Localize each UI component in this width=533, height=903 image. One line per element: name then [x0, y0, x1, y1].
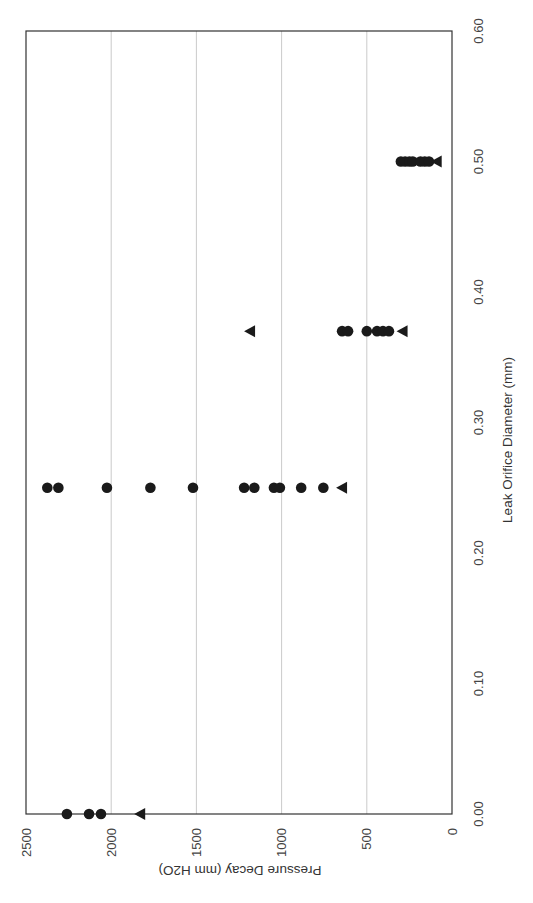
triangle-marker: [397, 325, 408, 337]
triangle-marker: [244, 325, 255, 337]
triangle-marker: [336, 482, 347, 494]
circle-marker: [249, 482, 260, 493]
pressure-tick-label: 0: [445, 828, 460, 835]
circle-marker: [343, 326, 354, 337]
diameter-axis-ticks: 0.000.100.200.300.400.500.60: [471, 18, 486, 826]
circle-marker: [296, 482, 307, 493]
circle-marker: [239, 482, 250, 493]
diameter-tick-label: 0.30: [471, 410, 486, 435]
pressure-tick-label: 2500: [19, 828, 34, 857]
circle-marker: [102, 482, 113, 493]
triangle-marker: [134, 808, 145, 820]
circle-marker: [53, 482, 64, 493]
gridlines: [111, 31, 367, 814]
circle-marker: [42, 482, 53, 493]
diameter-tick-label: 0.40: [471, 279, 486, 304]
pressure-tick-label: 500: [359, 828, 374, 850]
diameter-tick-label: 0.00: [471, 801, 486, 826]
data-points: [42, 156, 442, 821]
triangle-marker: [431, 156, 442, 168]
circle-marker: [84, 809, 95, 820]
diameter-tick-label: 0.10: [471, 671, 486, 696]
diameter-axis-title: Leak Orifice Diameter (mm): [500, 357, 515, 523]
pressure-tick-label: 1500: [189, 828, 204, 857]
circle-marker: [96, 809, 107, 820]
circle-marker: [318, 482, 329, 493]
circle-marker: [145, 482, 156, 493]
diameter-tick-label: 0.60: [471, 18, 486, 43]
plot-border: [26, 31, 452, 814]
pressure-axis-ticks: 05001000150020002500: [19, 828, 460, 857]
scatter-chart: 05001000150020002500 0.000.100.200.300.4…: [0, 0, 533, 903]
circle-marker: [62, 809, 73, 820]
circle-marker: [384, 326, 395, 337]
circle-marker: [188, 482, 199, 493]
pressure-tick-label: 1000: [274, 828, 289, 857]
pressure-tick-label: 2000: [104, 828, 119, 857]
diameter-tick-label: 0.50: [471, 149, 486, 174]
circle-marker: [275, 482, 286, 493]
circle-marker: [362, 326, 373, 337]
diameter-tick-label: 0.20: [471, 540, 486, 565]
pressure-axis-title: Pressure Decay (mm H2O): [159, 863, 322, 878]
